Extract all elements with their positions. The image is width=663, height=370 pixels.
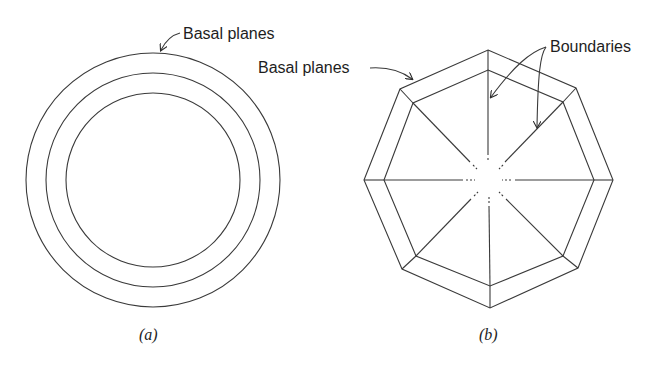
basal-planes-label-b: Basal planes: [258, 59, 350, 76]
basal-planes-arrow-b: [370, 68, 412, 79]
figure-b: Basal planes Boundaries (b): [258, 38, 631, 344]
middle-basal-plane-circle: [46, 73, 260, 287]
diagram-canvas: Basal planes (a): [0, 0, 663, 370]
boundaries-label: Boundaries: [550, 38, 631, 55]
figure-a: Basal planes (a): [26, 25, 280, 344]
basal-planes-arrow-a: [161, 33, 180, 50]
outer-basal-plane-circle: [26, 53, 280, 307]
caption-b: (b): [479, 326, 498, 344]
boundaries-arrow-2: [537, 47, 546, 127]
basal-planes-label-a: Basal planes: [183, 25, 275, 42]
caption-a: (a): [139, 326, 158, 344]
inner-basal-plane-circle: [66, 93, 240, 267]
